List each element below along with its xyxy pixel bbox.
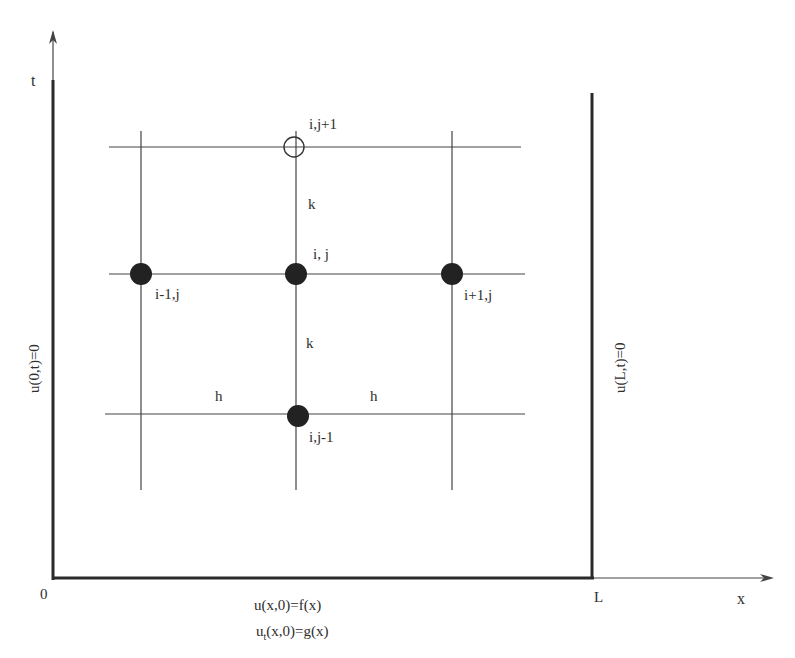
node-bottom-filled-circle-icon (287, 405, 309, 427)
t-axis (49, 30, 57, 580)
node-bottom-label: i,j-1 (309, 430, 334, 445)
t-axis-label: t (31, 73, 35, 89)
h-spacing-left-label: h (215, 389, 223, 404)
left-boundary-condition: u(0,t)=0 (27, 344, 42, 393)
initial-velocity-rest: (x,0)=g(x) (266, 623, 328, 639)
initial-displacement-condition: u(x,0)=f(x) (254, 598, 321, 613)
k-spacing-upper-label: k (308, 197, 316, 212)
initial-velocity-condition: ut(x,0)=g(x) (256, 624, 328, 642)
x-axis (53, 574, 774, 582)
origin-label: 0 (40, 587, 48, 602)
node-left-filled-circle-icon (130, 263, 152, 285)
x-axis-label: x (737, 591, 745, 607)
diagram-canvas (0, 0, 795, 658)
node-left-label: i-1,j (155, 287, 180, 302)
node-center-label: i, j (313, 247, 329, 262)
node-top-label: i,j+1 (309, 117, 337, 132)
L-label: L (594, 590, 603, 605)
node-center-filled-circle-icon (285, 263, 307, 285)
initial-velocity-base: u (256, 623, 264, 639)
k-spacing-lower-label: k (306, 336, 314, 351)
right-boundary-condition: u(L,t)=0 (613, 342, 628, 393)
node-right-label: i+1,j (464, 288, 492, 303)
h-spacing-right-label: h (370, 389, 378, 404)
node-right-filled-circle-icon (441, 263, 463, 285)
